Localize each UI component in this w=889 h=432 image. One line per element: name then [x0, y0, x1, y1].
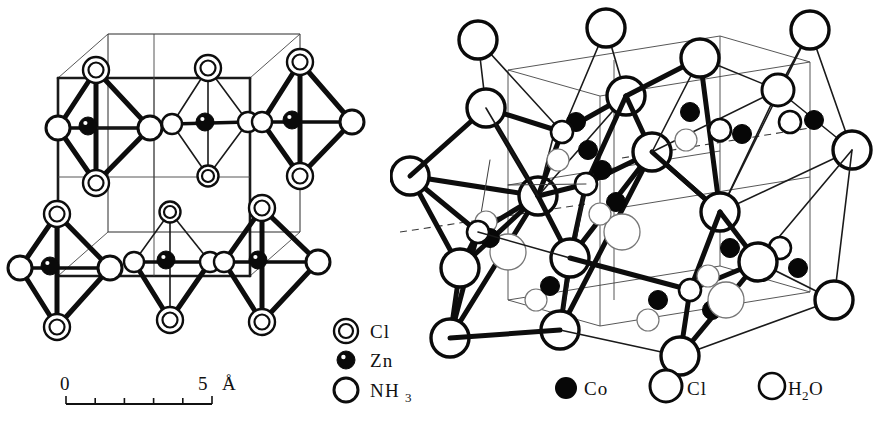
open-circle-small-icon [759, 373, 785, 399]
zn-center [41, 257, 59, 275]
double-circle-icon [334, 319, 358, 343]
legend-item-zn: Zn [337, 350, 394, 371]
co-center [579, 141, 598, 160]
legend-label-cl: Cl [687, 378, 707, 399]
legend-item-cl: Cl [650, 370, 707, 402]
right-legend: Co Cl H 2 O [555, 370, 824, 403]
open-circle-large-icon [650, 370, 682, 402]
open-circle-icon [334, 378, 358, 402]
zn-center [283, 111, 301, 129]
tetrahedron-zn-2 [162, 55, 258, 187]
co-center [733, 125, 752, 144]
co-center [649, 291, 668, 310]
filled-circle-icon [555, 377, 577, 399]
zn-center [79, 117, 97, 135]
scale-end-label: 5 [198, 373, 208, 394]
legend-label-h2o-tail: O [809, 378, 824, 399]
tetrahedron-zn-5 [124, 202, 220, 334]
scale-unit-label: Å [222, 373, 236, 394]
legend-label-cl: Cl [370, 321, 390, 342]
legend-label-h2o: H [788, 378, 803, 399]
tetrahedron-zn-4 [8, 201, 122, 340]
filled-circle-icon [337, 351, 355, 369]
legend-label-co: Co [584, 378, 609, 399]
octahedron-co-e [560, 150, 853, 375]
co-center [721, 239, 740, 258]
scale-bar: 0 5 Å [60, 373, 236, 404]
legend-item-cl: Cl [334, 319, 390, 343]
tetrahedron-zn-6 [214, 195, 330, 335]
legend-label-h2o-subscript: 2 [802, 388, 809, 403]
zn-center [157, 251, 175, 269]
co-center [681, 103, 700, 122]
scale-start-label: 0 [60, 373, 70, 394]
right-structure-panel: Co Cl H 2 O [390, 0, 889, 432]
co-center [789, 259, 808, 278]
figure-root: Cl Zn NH 3 0 5 Å [0, 0, 889, 432]
zn-center [249, 251, 267, 269]
tetrahedron-zn-3 [252, 49, 364, 189]
co-center [805, 111, 824, 130]
left-structure-panel: Cl Zn NH 3 0 5 Å [0, 0, 420, 432]
co-center [541, 277, 560, 296]
zn-center [196, 113, 214, 131]
legend-item-co: Co [555, 377, 609, 399]
legend-item-h2o: H 2 O [759, 373, 824, 403]
octahedron-co-a [391, 126, 557, 357]
